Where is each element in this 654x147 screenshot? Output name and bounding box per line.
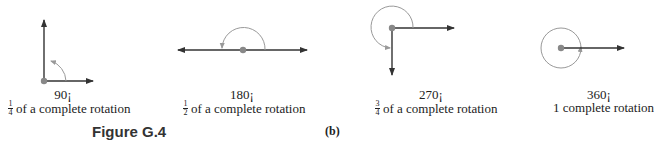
vertex-dot <box>240 47 246 53</box>
description-text: of a complete rotation <box>383 102 497 115</box>
description-180: 1 2 of a complete rotation <box>183 100 305 117</box>
description-text: of a complete rotation <box>191 102 305 115</box>
figure-title: Figure G.4 <box>92 123 166 140</box>
rotation-arc <box>51 61 66 81</box>
rotation-arc <box>222 27 265 50</box>
part-label: (b) <box>325 124 340 139</box>
numerator: 3 <box>376 100 380 108</box>
fraction: 1 2 <box>183 100 188 117</box>
fraction: 3 4 <box>375 100 380 117</box>
vertex-dot <box>558 45 564 51</box>
fraction: 1 4 <box>8 100 13 117</box>
numerator: 1 <box>184 100 188 108</box>
description-270: 3 4 of a complete rotation <box>375 100 497 117</box>
numerator: 1 <box>9 100 13 108</box>
angle-360 <box>541 28 624 68</box>
angle-90 <box>41 20 93 84</box>
denominator: 4 <box>9 109 13 117</box>
angle-270 <box>371 6 454 75</box>
vertex-dot <box>41 78 47 84</box>
description-90: 1 4 of a complete rotation <box>8 100 130 117</box>
vertex-dot <box>389 25 395 31</box>
denominator: 4 <box>376 109 380 117</box>
denominator: 2 <box>184 109 188 117</box>
description-text: of a complete rotation <box>16 102 130 115</box>
description-360: 1 complete rotation <box>553 101 654 114</box>
angle-180 <box>178 27 307 53</box>
